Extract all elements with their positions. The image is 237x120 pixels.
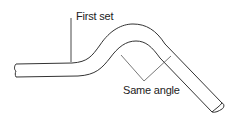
pipe-bottom-edge [16, 41, 212, 112]
pipe-top-edge [16, 24, 222, 103]
pipe-right-end [212, 103, 224, 112]
bent-pipe-illustration [0, 0, 237, 120]
pipe-bend-diagram: First set Same angle [0, 0, 237, 120]
pipe-left-end [15, 64, 17, 77]
same-angle-marker [121, 55, 171, 81]
first-set-label: First set [76, 10, 113, 22]
same-angle-label: Same angle [123, 84, 180, 96]
